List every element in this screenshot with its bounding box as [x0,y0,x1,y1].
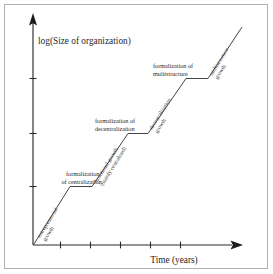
growth-label-decentralization: decentralization growth [148,97,178,134]
plateau-label-multistructure: formalization of multistructure [153,62,194,77]
plateau-label-line1: formalization of [95,117,136,124]
plateau-label-line2: multistructure [153,70,188,77]
x-axis-arrowhead-icon [231,241,244,250]
growth-staircase-curve [34,27,242,244]
y-axis-label: log(Size of organization) [38,36,131,47]
figure-root: log(Size of organization) Time (years) f… [0,0,273,274]
growth-label-entrepreneurial: entrepreneurial growth [36,206,65,242]
x-axis-group [33,241,243,250]
plateau-label-line1: formalization of [153,62,194,69]
x-axis-label: Time (years) [150,255,197,266]
plateau-label-decentralization: formalization of decentralization [95,117,136,132]
growth-label-multistructure: multistructure growth [208,46,236,80]
growth-stages-chart: log(Size of organization) Time (years) f… [0,0,273,274]
plateau-label-line2: decentralization [95,125,135,132]
plateau-label-line1: formalization [66,170,99,177]
y-axis-group [29,13,37,245]
growth-label-functional: functional growth (mainly centralized) [93,142,129,188]
